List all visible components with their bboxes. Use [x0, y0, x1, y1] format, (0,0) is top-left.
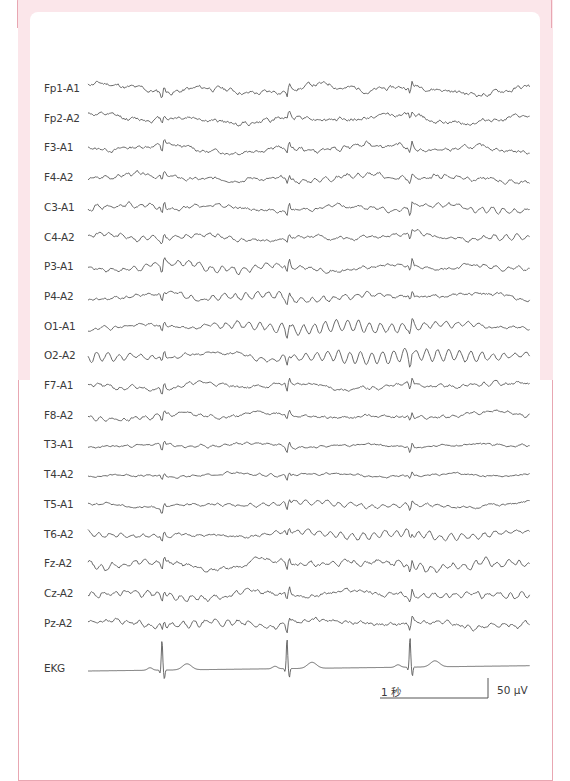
channel-label: C4-A2: [44, 231, 74, 243]
channel-label: Fp1-A1: [44, 82, 80, 94]
trace-f7-a1: [88, 378, 530, 394]
channel-label: P3-A1: [44, 260, 73, 272]
trace-f3-a1: [88, 140, 530, 155]
channel-label: F7-A1: [44, 379, 73, 391]
channel-label: Pz-A2: [44, 617, 72, 629]
trace-p3-a1: [88, 258, 530, 275]
trace-fp2-a2: [88, 111, 530, 126]
amplitude-scale-label: 50 μV: [497, 684, 528, 696]
channel-label: F3-A1: [44, 141, 73, 153]
trace-ekg: [88, 639, 530, 679]
channel-label: C3-A1: [44, 201, 74, 213]
trace-t6-a2: [88, 529, 530, 542]
channel-label: T3-A1: [44, 438, 74, 450]
trace-cz-a2: [88, 587, 530, 602]
trace-fp1-a1: [88, 81, 530, 97]
time-scale-label: 1 秒: [381, 684, 401, 699]
channel-label: T5-A1: [44, 498, 74, 510]
channel-label: Fz-A2: [44, 557, 72, 569]
channel-label: Fp2-A2: [44, 112, 80, 124]
trace-fz-a2: [88, 557, 530, 572]
trace-o2-a2: [88, 348, 530, 367]
channel-label: P4-A2: [44, 290, 73, 302]
channel-label: T6-A2: [44, 528, 74, 540]
channel-label: O2-A2: [44, 349, 75, 361]
trace-t5-a1: [88, 500, 530, 513]
ekg-label: EKG: [44, 662, 65, 674]
trace-c3-a1: [88, 202, 530, 216]
trace-o1-a1: [88, 319, 530, 339]
channel-label: Cz-A2: [44, 587, 73, 599]
trace-f8-a2: [88, 410, 530, 422]
trace-c4-a2: [88, 229, 530, 244]
channel-label: O1-A1: [44, 320, 75, 332]
trace-pz-a2: [88, 616, 530, 633]
trace-p4-a2: [88, 291, 530, 305]
trace-f4-a2: [88, 170, 530, 184]
channel-label: T4-A2: [44, 468, 74, 480]
channel-label: F4-A2: [44, 171, 73, 183]
channel-label: F8-A2: [44, 409, 73, 421]
trace-t4-a2: [88, 472, 530, 481]
trace-t3-a1: [88, 441, 530, 452]
